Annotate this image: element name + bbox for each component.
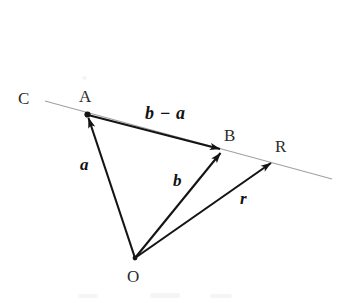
scan-artifact-top: [82, 76, 87, 80]
point-a-dot: [84, 111, 90, 117]
vector-a-arrow: [89, 118, 136, 258]
vector-b-arrow: [135, 153, 221, 258]
scan-artifact-bottom-mid: [150, 293, 180, 298]
point-label-c: C: [18, 90, 29, 107]
vector-label-b-minus-a: b − a: [145, 104, 185, 122]
scan-artifact-bottom-left: [78, 294, 98, 298]
vector-diagram-figure: [0, 0, 355, 303]
point-label-b: B: [224, 127, 235, 144]
vector-label-r: r: [240, 190, 247, 207]
diagram-canvas: C A B R O a b − a b r: [0, 0, 355, 303]
point-label-r: R: [275, 138, 286, 155]
point-label-a: A: [79, 88, 91, 105]
vector-label-a: a: [80, 156, 89, 173]
scan-artifact-bottom-right: [210, 294, 232, 298]
vector-r-arrow: [135, 163, 271, 258]
point-label-o: O: [127, 268, 139, 285]
vector-label-b: b: [173, 172, 182, 189]
point-o-dot: [133, 256, 138, 261]
